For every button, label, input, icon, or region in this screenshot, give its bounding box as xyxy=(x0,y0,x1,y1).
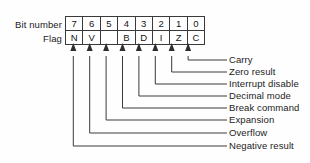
flag-cell: B xyxy=(118,31,135,45)
bit-number-cell: 1 xyxy=(170,17,187,31)
bit-number-cell: 6 xyxy=(83,17,100,31)
flag-cell xyxy=(100,31,117,45)
callout-label-carry: Carry xyxy=(229,54,253,65)
callout-label-overflow: Overflow xyxy=(229,127,267,138)
callout-label-negative-result: Negative result xyxy=(229,140,294,151)
leader-line-bit-6 xyxy=(90,56,227,133)
flag-cell: C xyxy=(187,31,204,45)
flag-cell: D xyxy=(135,31,152,45)
flag-cell: V xyxy=(83,31,100,45)
flag-row: N V B D I Z C xyxy=(66,31,205,45)
status-register-table: 7 6 5 4 3 2 1 0 N V B D I Z C xyxy=(65,16,205,45)
leader-line-bit-3 xyxy=(139,56,227,96)
leader-line-bit-0 xyxy=(188,56,227,60)
leader-line-bit-5 xyxy=(106,56,227,120)
leader-line-bit-2 xyxy=(155,56,227,84)
flag-cell: Z xyxy=(170,31,187,45)
status-register-diagram: Bit number Flag 7 6 5 4 3 2 1 0 N V B D … xyxy=(0,0,310,163)
bit-number-cell: 7 xyxy=(66,17,83,31)
leader-line-bit-4 xyxy=(123,56,228,108)
bit-number-cell: 4 xyxy=(118,17,135,31)
bit-number-cell: 0 xyxy=(187,17,204,31)
flag-cell: I xyxy=(152,31,169,45)
callout-label-zero-result: Zero result xyxy=(229,66,276,77)
bit-number-cell: 2 xyxy=(152,17,169,31)
callout-label-expansion: Expansion xyxy=(229,114,274,125)
bit-number-cell: 3 xyxy=(135,17,152,31)
callout-label-interrupt-disable: Interrupt disable xyxy=(229,78,299,89)
flag-cell: N xyxy=(66,31,83,45)
bit-number-row-label: Bit number xyxy=(0,19,62,30)
leader-line-bit-7 xyxy=(73,56,227,146)
callout-label-decimal-mode: Decimal mode xyxy=(229,90,291,101)
callout-label-break-command: Break command xyxy=(229,102,299,113)
bit-number-row: 7 6 5 4 3 2 1 0 xyxy=(66,17,205,31)
bit-number-cell: 5 xyxy=(100,17,117,31)
leader-line-bit-1 xyxy=(172,56,227,72)
flag-row-label: Flag xyxy=(0,33,62,44)
